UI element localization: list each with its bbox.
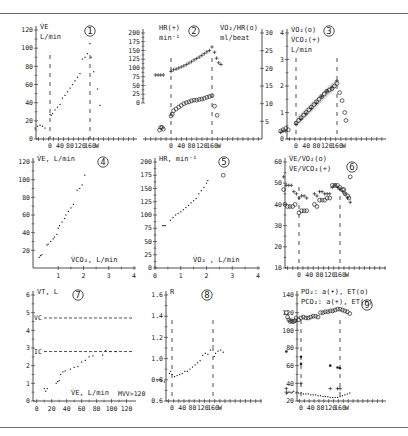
y-tick-label: 75 bbox=[132, 73, 140, 81]
x-tick-label: W bbox=[345, 404, 349, 412]
x-tick-label: 40 bbox=[302, 142, 310, 150]
mvv-annotation: MVV>120 bbox=[118, 390, 145, 398]
y-tick-label: 60 bbox=[274, 158, 282, 166]
y-axis-label: V̇E bbox=[40, 22, 48, 31]
x-tick-label: 0 bbox=[153, 272, 157, 280]
panel-number: 9 bbox=[364, 300, 369, 310]
y-tick-label: 25 bbox=[144, 251, 152, 259]
panel-number: 7 bbox=[75, 290, 80, 300]
y-tick-label: 20 bbox=[22, 247, 30, 255]
y-tick-label: 100 bbox=[140, 211, 152, 219]
x-tick-label: 1 bbox=[56, 272, 60, 280]
cpet-nine-panel-figure: 02040608010012004080120160WV̇EL/min10255… bbox=[0, 0, 408, 436]
y-tick-label: 175 bbox=[140, 171, 152, 179]
x-tick-label: 40 bbox=[177, 142, 185, 150]
y-tick-label: 0 bbox=[26, 397, 30, 405]
y-tick-label: 1.4 bbox=[151, 312, 163, 320]
y-axis-label: V̇E/V̇CO₂(+) bbox=[289, 164, 331, 173]
y-right-axis-label: ml/beat bbox=[220, 34, 250, 42]
y-tick-label: 0.6 bbox=[151, 397, 163, 405]
y-tick-label: 4 bbox=[26, 327, 30, 335]
x-tick-label: 40 bbox=[178, 404, 186, 412]
x-tick-label: 0 bbox=[299, 404, 303, 412]
y-axis-label: V̇E/V̇O₂(o) bbox=[289, 154, 327, 163]
x-tick-label: W bbox=[218, 404, 222, 412]
y-tick-label: 125 bbox=[128, 55, 140, 63]
panel-number: 2 bbox=[191, 26, 196, 36]
y-tick-label: 3 bbox=[26, 344, 30, 352]
panel-4: 204060801001201234V̇CO₂, L/minV̇E, L/min… bbox=[18, 154, 136, 280]
y-tick-label: 200 bbox=[128, 29, 140, 37]
panel-number: 5 bbox=[221, 157, 226, 167]
y-tick-label: 120 bbox=[18, 158, 30, 166]
y-axis-label: R bbox=[170, 288, 175, 296]
x-tick-label: 80 bbox=[93, 405, 101, 413]
x-tick-label: 0 bbox=[170, 404, 174, 412]
y-tick-label: 30 bbox=[274, 222, 282, 230]
x-axis-label: V̇O₂ , L/min bbox=[193, 255, 239, 264]
y-tick-label: 0 bbox=[136, 99, 140, 107]
y-tick-label: 3 bbox=[280, 56, 284, 64]
y-tick-label: 100 bbox=[128, 64, 140, 72]
y-axis-label: V̇E, L/min bbox=[37, 154, 75, 163]
y-tick-label: 0 bbox=[29, 135, 33, 143]
y-axis-label: PO₂: a(•), ET(o) bbox=[301, 288, 368, 296]
y-right-tick-label: 20 bbox=[265, 65, 273, 73]
x-tick-label: 80 bbox=[189, 404, 197, 412]
x-tick-label: 3 bbox=[230, 272, 234, 280]
y-tick-label: 5 bbox=[26, 309, 30, 317]
y-tick-label: 1 bbox=[26, 380, 30, 388]
y-axis-label: HR(+) bbox=[159, 24, 180, 32]
x-tick-label: W bbox=[345, 271, 349, 279]
y-axis-label: min⁻¹ bbox=[159, 34, 180, 42]
panel-number: 4 bbox=[100, 157, 105, 167]
panel-8: 0.60.81.01.21.41.604080120160WR8 bbox=[151, 288, 262, 412]
x-tick-label: 0 bbox=[169, 142, 173, 150]
x-tick-label: 4 bbox=[132, 272, 136, 280]
y-tick-label: 150 bbox=[140, 185, 152, 193]
x-tick-label: 0 bbox=[294, 142, 298, 150]
y-tick-label: 0 bbox=[280, 135, 284, 143]
y-tick-label: 120 bbox=[21, 26, 33, 34]
y-axis-label: V̇CO₂(+) bbox=[291, 35, 321, 44]
y-tick-label: 80 bbox=[25, 63, 33, 71]
y-tick-label: 50 bbox=[132, 82, 140, 90]
x-tick-label: 2 bbox=[82, 272, 86, 280]
x-tick-label: W bbox=[95, 142, 99, 150]
panel-2: 0255075100125150175200510152025300408012… bbox=[128, 23, 273, 150]
x-tick-label: 0 bbox=[297, 271, 301, 279]
x-tick-label: 120 bbox=[121, 405, 133, 413]
panel-7: 0123456020406080100120V̇E, L/minMVV>120V… bbox=[26, 288, 145, 413]
y-tick-label: 20 bbox=[274, 243, 282, 251]
panel-5: 025507510012515017520001234V̇O₂ , L/minH… bbox=[140, 155, 260, 280]
y-tick-label: 50 bbox=[274, 179, 282, 187]
y-tick-label: 0 bbox=[148, 264, 152, 272]
y-tick-label: 40 bbox=[286, 380, 294, 388]
x-tick-label: 80 bbox=[317, 404, 325, 412]
panel-3: 0123404080120160WV̇O₂(o)V̇CO₂(+)L/min3 bbox=[279, 25, 386, 150]
x-tick-label: W bbox=[342, 142, 346, 150]
y-tick-label: 2 bbox=[26, 362, 30, 370]
y-tick-label: 150 bbox=[128, 47, 140, 55]
y-tick-label: 175 bbox=[128, 38, 140, 46]
panel-9: 2040608010012014004080120160WPO₂: a(•), … bbox=[282, 288, 386, 412]
y-tick-label: 4 bbox=[280, 29, 284, 37]
y-right-tick-label: 15 bbox=[265, 82, 273, 90]
panel-number: 1 bbox=[87, 26, 92, 36]
x-tick-label: 100 bbox=[106, 405, 118, 413]
y-right-tick-label: 30 bbox=[265, 29, 273, 37]
y-tick-label: 1.0 bbox=[151, 355, 163, 363]
y-tick-label: 1 bbox=[280, 109, 284, 117]
x-tick-label: 3 bbox=[107, 272, 111, 280]
x-axis-label: V̇CO₂, L/min bbox=[71, 255, 117, 264]
panel-number: 3 bbox=[326, 26, 331, 36]
y-tick-label: 100 bbox=[18, 176, 30, 184]
y-tick-label: 75 bbox=[144, 224, 152, 232]
x-tick-label: 0 bbox=[35, 405, 39, 413]
x-tick-label: 40 bbox=[63, 405, 71, 413]
y-tick-label: 25 bbox=[132, 90, 140, 98]
y-right-tick-label: 10 bbox=[265, 100, 273, 108]
x-tick-label: 80 bbox=[66, 142, 74, 150]
y-axis-label: HR, min⁻¹ bbox=[159, 155, 197, 163]
panel-1: 02040608010012004080120160WV̇EL/min1 bbox=[21, 22, 137, 150]
